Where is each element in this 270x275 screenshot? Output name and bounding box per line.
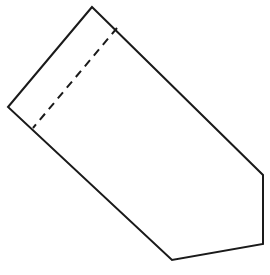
shape-diagram	[0, 0, 270, 275]
dashed-fold-line	[33, 28, 117, 128]
shape-outline	[8, 7, 263, 260]
